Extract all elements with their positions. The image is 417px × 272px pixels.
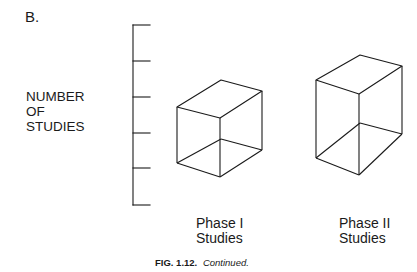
category-label-line: Phase I — [196, 216, 243, 231]
category-label-line: Studies — [339, 231, 390, 246]
y-axis — [133, 25, 150, 205]
category-label-line: Phase II — [339, 216, 390, 231]
figure-number: FIG. 1.12. — [155, 257, 197, 268]
figure-caption: FIG. 1.12. Continued. — [155, 257, 249, 268]
phase-1-cube — [177, 80, 262, 177]
figure-caption-text: Continued. — [203, 257, 249, 268]
category-label-phase-1: Phase I Studies — [196, 216, 243, 246]
category-label-line: Studies — [196, 231, 243, 246]
category-label-phase-2: Phase II Studies — [339, 216, 390, 246]
phase-2-cube — [316, 55, 402, 175]
